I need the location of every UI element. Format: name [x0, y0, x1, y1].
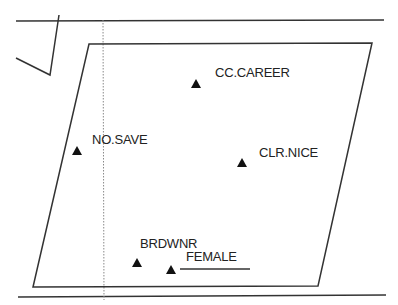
point-label-no-save: NO.SAVE — [92, 133, 147, 146]
triangle-marker-brdwnr[interactable] — [132, 258, 142, 267]
zigzag-line — [16, 15, 59, 75]
triangle-marker-cc-career[interactable] — [191, 79, 201, 88]
top-horizontal-line — [16, 20, 384, 21]
bottom-horizontal-line — [18, 295, 386, 297]
dotted-vertical-line — [103, 20, 104, 300]
point-label-female: FEMALE — [186, 250, 237, 263]
triangle-marker-no-save[interactable] — [72, 146, 82, 155]
triangle-marker-clr-nice[interactable] — [237, 158, 247, 167]
triangle-marker-female[interactable] — [166, 265, 176, 274]
point-label-cc-career: CC.CAREER — [215, 66, 290, 79]
point-label-clr-nice: CLR.NICE — [259, 146, 318, 159]
